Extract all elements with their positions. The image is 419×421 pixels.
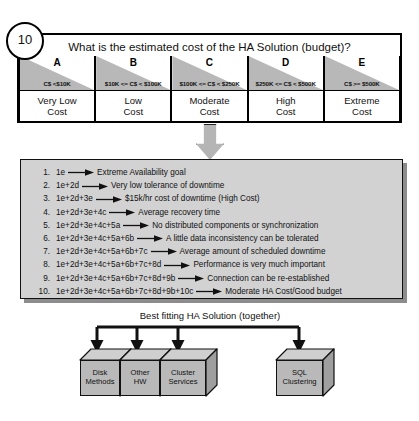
scale-triangle-e: EC$ >= $500K (324, 56, 400, 90)
list-item: 1.1eExtreme Availability goal (30, 168, 394, 181)
scale-triangle-c: C$100K <= C$ < $250K (171, 56, 247, 90)
right-arrow-icon (93, 194, 125, 203)
solution-box[interactable]: SQL Clustering (275, 348, 335, 397)
list-item: 4.1e+2d+3e+4cAverage recovery time (30, 208, 394, 221)
scale-triangle-b: B$10K <= C$ < $100K (95, 56, 171, 90)
cost-label-b: Low Cost (95, 90, 171, 121)
list-item: 8.1e+2d+3e+4c+5a+6b+7c+8dPerformance is … (30, 260, 394, 273)
scale-triangle-d: D$250K <= C$ < $500K (248, 56, 324, 90)
solution-caption: Best fitting HA Solution (together) (95, 310, 325, 323)
scale-range-label: C$ >= $500K (325, 80, 399, 87)
list-item-expression: 1e+2d+3e+4c+5a+6b+7c+8d+9b (56, 274, 175, 283)
question-number-badge: 10 (6, 22, 44, 60)
right-arrow-icon (120, 221, 152, 230)
list-item-expression: 1e+2d+3e+4c+5a+6b+7c (56, 247, 148, 256)
list-item-result: Average amount of scheduled downtime (180, 247, 326, 256)
right-arrow-icon (193, 287, 225, 296)
scale-range-label: $10K <= C$ < $100K (96, 80, 170, 87)
scale-letter: B (96, 57, 170, 68)
right-arrow-icon (79, 181, 111, 190)
list-item-number: 4. (30, 208, 56, 217)
list-item: 9.1e+2d+3e+4c+5a+6b+7c+8d+9bConnection c… (30, 274, 394, 287)
scale-letter: C (172, 57, 246, 68)
scale-triangle-a: AC$ <$10K (19, 56, 95, 90)
scale-range-label: $250K <= C$ < $500K (249, 80, 323, 87)
right-arrow-icon (65, 168, 97, 177)
list-item-result: Very low tolerance of downtime (111, 181, 224, 190)
scale-range-label: C$ <$10K (20, 80, 94, 87)
list-item-expression: 1e+2d+3e (56, 194, 93, 203)
list-item-expression: 1e+2d+3e+4c+5a (56, 221, 120, 230)
list-item-result: $15k/hr cost of downtime (High Cost) (125, 194, 260, 203)
list-item-number: 5. (30, 221, 56, 230)
scale-letter: E (325, 57, 399, 68)
list-item: 2.1e+2dVery low tolerance of downtime (30, 181, 394, 194)
solution-box-label: Other HW (120, 360, 160, 396)
list-item-number: 2. (30, 181, 56, 190)
list-item: 3.1e+2d+3e$15k/hr cost of downtime (High… (30, 194, 394, 207)
page-title: What is the estimated cost of the HA Sol… (17, 36, 402, 58)
cost-label-a: Very Low Cost (19, 90, 95, 121)
cost-label-d: High Cost (248, 90, 324, 121)
list-item-result: Connection can be re-established (207, 274, 329, 283)
list-item-number: 1. (30, 168, 56, 177)
list-item-expression: 1e+2d (56, 181, 79, 190)
scale-letter: D (249, 57, 323, 68)
list-item-result: No distributed components or synchroniza… (152, 221, 318, 230)
list-item-number: 8. (30, 260, 56, 269)
list-item-expression: 1e+2d+3e+4c+5a+6b (56, 234, 134, 243)
list-item-result: A little data inconsistency can be toler… (166, 234, 318, 243)
solution-box[interactable]: Cluster Services (159, 348, 218, 397)
list-item-expression: 1e (56, 168, 65, 177)
solution-box-label: SQL Clustering (276, 360, 323, 396)
list-item-number: 10. (30, 287, 56, 296)
list-item-expression: 1e+2d+3e+4c+5a+6b+7c+8d (56, 260, 161, 269)
list-item-number: 9. (30, 274, 56, 283)
list-item-result: Performance is very much important (193, 260, 325, 269)
right-arrow-icon (148, 247, 180, 256)
list-item-expression: 1e+2d+3e+4c (56, 208, 106, 217)
right-arrow-icon (134, 234, 166, 243)
list-item-number: 6. (30, 234, 56, 243)
right-arrow-icon (106, 208, 138, 217)
down-block-arrow-icon (196, 124, 224, 160)
cost-label-c: Moderate Cost (171, 90, 247, 121)
list-item: 10.1e+2d+3e+4c+5a+6b+7c+8d+9b+10cModerat… (30, 287, 394, 300)
solution-box-label: Disk Methods (80, 360, 120, 396)
scale-range-label: $100K <= C$ < $250K (172, 80, 246, 87)
list-item-number: 3. (30, 194, 56, 203)
list-item-result: Average recovery time (138, 208, 220, 217)
solution-box-label: Cluster Services (160, 360, 206, 396)
cost-label-e: Extreme Cost (324, 90, 400, 121)
right-arrow-icon (175, 274, 207, 283)
list-item-number: 7. (30, 247, 56, 256)
list-item: 5.1e+2d+3e+4c+5aNo distributed component… (30, 221, 394, 234)
summary-list-panel: 1.1eExtreme Availability goal2.1e+2dVery… (20, 159, 403, 299)
list-item: 6.1e+2d+3e+4c+5a+6bA little data inconsi… (30, 234, 394, 247)
list-item-result: Extreme Availability goal (97, 168, 186, 177)
summary-list: 1.1eExtreme Availability goal2.1e+2dVery… (30, 168, 394, 300)
list-item: 7.1e+2d+3e+4c+5a+6b+7cAverage amount of … (30, 247, 394, 260)
list-item-result: Moderate HA Cost/Good budget (225, 287, 342, 296)
list-item-expression: 1e+2d+3e+4c+5a+6b+7c+8d+9b+10c (56, 287, 193, 296)
right-arrow-icon (161, 260, 193, 269)
